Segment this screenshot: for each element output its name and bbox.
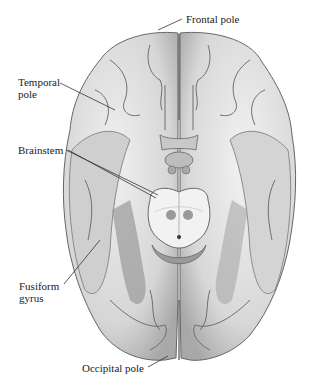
label-temporal-pole-line1: Temporal — [18, 76, 60, 88]
brain-illustration — [0, 0, 318, 389]
label-brainstem: Brainstem — [18, 144, 63, 156]
label-fusiform-line2: gyrus — [19, 292, 43, 304]
label-frontal-pole: Frontal pole — [186, 13, 239, 25]
label-temporal-pole-line2: pole — [18, 88, 37, 100]
brain-ventral-view-figure: Frontal pole Temporal pole Brainstem Fus… — [0, 0, 318, 389]
label-fusiform-line1: Fusiform — [19, 280, 59, 292]
label-occipital-pole: Occipital pole — [82, 362, 144, 374]
brainstem-section — [148, 188, 210, 263]
